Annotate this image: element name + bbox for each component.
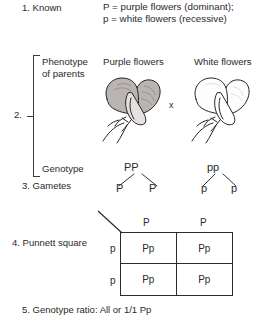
punnett-square-diagonal-line	[97, 210, 123, 234]
dominant-allele-definition: P = purple flowers (dominant);	[103, 1, 234, 12]
punnett-cell-r1c2: Pp	[177, 233, 233, 264]
phenotype-label-line-1: Phenotype	[42, 56, 88, 67]
punnett-row-header-1: p	[110, 243, 116, 255]
punnett-column-header-1: P	[143, 217, 150, 229]
step-2-label: 2.	[14, 110, 22, 121]
cross-symbol: x	[169, 100, 174, 110]
punnett-column-header-2: P	[200, 217, 207, 229]
step-1-known-label: 1. Known	[22, 3, 62, 14]
white-pea-flower-illustration	[186, 73, 254, 151]
genotype-label: Genotype	[42, 163, 84, 174]
parent-1-gamete-a: P	[116, 182, 123, 195]
punnett-cell-r2c1: Pp	[121, 264, 177, 295]
punnett-cell-r1c1: Pp	[121, 233, 177, 264]
punnett-square-grid: Pp Pp Pp Pp	[120, 232, 233, 296]
step-4-punnett-square-label: 4. Punnett square	[12, 238, 87, 249]
parent-1-gamete-b: P	[149, 182, 156, 195]
parent-2-gamete-b: p	[231, 182, 237, 195]
punnett-row-header-2: p	[110, 275, 116, 287]
purple-pea-flower-illustration	[97, 73, 165, 151]
parents-section-bracket	[33, 55, 40, 177]
phenotype-label-line-2: of parents	[42, 68, 85, 79]
parent-2-phenotype-title: White flowers	[194, 56, 252, 67]
step-3-gametes-label: 3. Gametes	[22, 181, 71, 192]
parent-1-phenotype-title: Purple flowers	[103, 56, 164, 67]
punnett-cell-r2c2: Pp	[177, 264, 233, 295]
parent-2-gamete-a: p	[201, 182, 207, 195]
genetics-punnett-square-diagram: 1. Known P = purple flowers (dominant); …	[0, 0, 264, 319]
recessive-allele-definition: p = white flowers (recessive)	[103, 13, 227, 24]
step-5-genotype-ratio-label: 5. Genotype ratio: All or 1/1 Pp	[22, 305, 151, 316]
